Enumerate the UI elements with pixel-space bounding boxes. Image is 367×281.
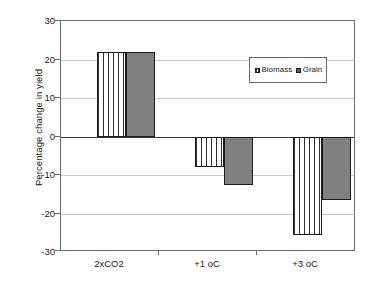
bar-chart: Percentage change in yield 30 20 10 0 -1… (0, 0, 367, 281)
legend-label-biomass: Biomass (262, 66, 293, 74)
bar-biomass-2xco2 (97, 52, 126, 138)
y-tick-label: -20 (15, 207, 55, 218)
legend-entry-biomass: Biomass (255, 66, 292, 74)
y-tick-label: 0 (15, 130, 55, 141)
legend-swatch-icon-biomass (255, 68, 260, 73)
bar-grain-2xco2 (126, 52, 155, 138)
y-tick-label: -30 (15, 246, 55, 257)
x-tick-mark (256, 251, 257, 255)
x-category-label: +3 oC (250, 258, 360, 269)
x-tick-mark (158, 251, 159, 255)
bar-biomass-plus3c (293, 137, 322, 235)
bar-grain-plus3c (322, 137, 351, 201)
y-tick-label: -10 (15, 169, 55, 180)
legend-entry-grain: Grain (296, 66, 322, 74)
bar-grain-plus1c (224, 137, 253, 185)
y-tick-label: 20 (15, 53, 55, 64)
legend-label-grain: Grain (303, 66, 323, 74)
chart-legend: Biomass Grain (249, 57, 327, 83)
legend-swatch-icon-grain (296, 68, 301, 73)
x-category-label: +1 oC (152, 258, 262, 269)
x-category-label: 2xCO2 (54, 258, 164, 269)
y-tick-label: 10 (15, 92, 55, 103)
plot-area (60, 20, 355, 251)
bar-biomass-plus1c (195, 137, 224, 168)
y-tick-label: 30 (15, 15, 55, 26)
